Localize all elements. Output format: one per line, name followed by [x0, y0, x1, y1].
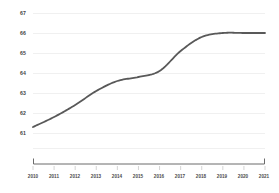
x-axis-label-2011: 2011 [44, 174, 64, 180]
x-axis-label-2021: 2021 [254, 174, 274, 180]
x-axis-label-2017: 2017 [170, 174, 190, 180]
x-axis-label-2013: 2013 [86, 174, 106, 180]
x-axis-label-2020: 2020 [233, 174, 253, 180]
x-axis-label-2010: 2010 [23, 174, 43, 180]
x-axis-label-2012: 2012 [65, 174, 85, 180]
x-axis-label-2016: 2016 [149, 174, 169, 180]
x-axis-label-2015: 2015 [128, 174, 148, 180]
line-chart: 67 66 65 64 63 62 61 2010 2011 2012 2013… [0, 0, 279, 193]
x-axis-label-2018: 2018 [191, 174, 211, 180]
x-axis-label-2019: 2019 [212, 174, 232, 180]
x-axis-label-2014: 2014 [107, 174, 127, 180]
x-axis-ticks [0, 0, 279, 193]
